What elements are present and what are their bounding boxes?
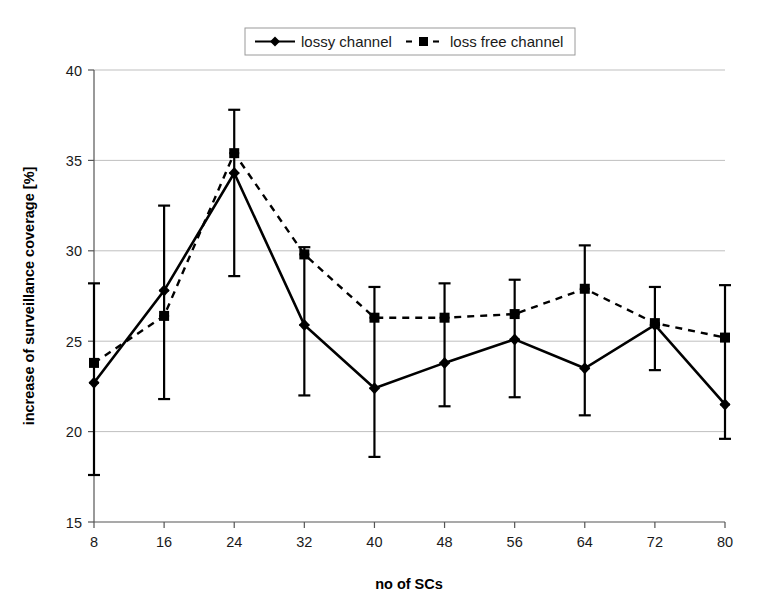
data-point-loss-free <box>580 284 590 294</box>
data-point-lossy <box>509 333 520 345</box>
data-point-loss-free <box>720 333 730 343</box>
data-point-loss-free <box>299 249 309 259</box>
y-axis-title: increase of surveillance coverage [%] <box>21 166 37 425</box>
error-bars <box>88 110 731 475</box>
data-point-lossy <box>579 362 590 374</box>
x-axis-tick-labels: 8162432404856647280 <box>90 534 733 550</box>
data-point-loss-free <box>440 313 450 323</box>
y-axis-tick-labels: 152025303540 <box>66 63 82 531</box>
lossy-channel-line <box>94 173 725 404</box>
y-tick-label: 15 <box>66 515 82 531</box>
series-lossy-channel <box>89 167 731 410</box>
x-tick-label: 24 <box>226 534 242 550</box>
data-point-loss-free <box>229 148 239 158</box>
data-point-lossy <box>439 357 450 369</box>
x-tick-label: 48 <box>436 534 452 550</box>
chart-legend: lossy channel loss free channel <box>245 28 575 55</box>
x-axis-title: no of SCs <box>375 576 443 592</box>
x-tick-label: 72 <box>647 534 663 550</box>
y-tick-label: 25 <box>66 334 82 350</box>
data-point-loss-free <box>89 358 99 368</box>
x-tick-label: 64 <box>577 534 593 550</box>
series-loss-free-channel <box>89 148 730 368</box>
data-point-loss-free <box>369 313 379 323</box>
x-tick-label: 56 <box>507 534 523 550</box>
x-tick-label: 16 <box>156 534 172 550</box>
y-tick-label: 40 <box>66 63 82 79</box>
loss-free-channel-line <box>94 153 725 363</box>
data-point-loss-free <box>159 311 169 321</box>
y-tick-label: 30 <box>66 243 82 259</box>
chart-canvas: 152025303540 8162432404856647280 no of S… <box>0 0 764 615</box>
legend-label-lossy: lossy channel <box>301 33 392 50</box>
chart-figure: 152025303540 8162432404856647280 no of S… <box>0 0 764 615</box>
x-axis-ticks <box>94 522 725 528</box>
x-tick-label: 80 <box>717 534 733 550</box>
x-tick-label: 8 <box>90 534 98 550</box>
legend-label-loss-free: loss free channel <box>450 33 563 50</box>
y-tick-label: 20 <box>66 424 82 440</box>
x-tick-label: 40 <box>366 534 382 550</box>
data-point-loss-free <box>510 309 520 319</box>
y-tick-label: 35 <box>66 153 82 169</box>
square-icon <box>419 37 428 46</box>
x-tick-label: 32 <box>296 534 312 550</box>
